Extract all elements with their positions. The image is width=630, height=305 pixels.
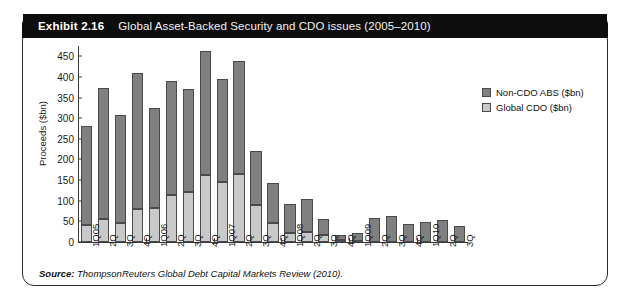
chart-legend: Non-CDO ABS ($bn)Global CDO ($bn): [482, 86, 584, 116]
x-tick-label: 1Q09: [362, 224, 373, 247]
bar: [149, 107, 160, 242]
x-tick-label: 2Q: [447, 234, 458, 247]
plot-area: Proceeds ($bn) 0501001502002503003504004…: [22, 28, 608, 286]
y-tick-label: 250: [57, 133, 74, 144]
x-tick-label: 4Q: [141, 234, 152, 247]
x-tick-label: 2Q: [379, 234, 390, 247]
y-tick-mark: [78, 138, 82, 139]
y-tick-mark: [78, 97, 82, 98]
x-tick-label: 4Q: [277, 234, 288, 247]
x-tick-label: 3Q: [192, 234, 203, 247]
y-tick-label: 200: [57, 154, 74, 165]
x-tick-label: 2Q: [311, 234, 322, 247]
x-tick-label: 1Q07: [226, 224, 237, 247]
y-tick-label: 300: [57, 113, 74, 124]
x-tick-mark: [214, 238, 215, 242]
y-tick-mark: [78, 76, 82, 77]
bar-segment-non-cdo-abs: [200, 51, 211, 175]
y-tick-label: 50: [63, 216, 74, 227]
legend-item: Global CDO ($bn): [482, 101, 584, 114]
y-tick-mark: [78, 56, 82, 57]
bar: [132, 73, 143, 242]
y-tick-mark: [78, 200, 82, 201]
x-tick-label: 4Q: [413, 234, 424, 247]
x-axis-line: [78, 242, 468, 243]
bar: [200, 51, 211, 242]
bar-segment-non-cdo-abs: [250, 151, 261, 205]
bar: [166, 81, 177, 242]
y-tick-mark: [78, 159, 82, 160]
x-tick-label: 2Q: [175, 234, 186, 247]
x-tick-label: 3Q: [124, 234, 135, 247]
exhibit-figure: Exhibit 2.16 Global Asset-Backed Securit…: [22, 14, 608, 286]
legend-label: Non-CDO ABS ($bn): [496, 87, 584, 98]
x-tick-label: 2Q: [107, 234, 118, 247]
x-tick-label: 4Q: [345, 234, 356, 247]
bar-segment-non-cdo-abs: [267, 183, 278, 223]
y-axis-ticks: 050100150200250300350400450: [44, 28, 74, 286]
bar-segment-global-cdo: [200, 175, 211, 242]
bar-segment-non-cdo-abs: [81, 126, 92, 225]
bar-segment-non-cdo-abs: [233, 61, 244, 174]
bar: [267, 183, 278, 242]
x-tick-mark: [281, 238, 282, 242]
x-tick-mark: [146, 238, 147, 242]
y-tick-label: 350: [57, 92, 74, 103]
legend-swatch-icon: [482, 88, 491, 97]
x-tick-mark: [417, 238, 418, 242]
y-tick-mark: [78, 180, 82, 181]
legend-label: Global CDO ($bn): [496, 102, 572, 113]
y-tick-mark: [78, 221, 82, 222]
x-tick-label: 2Q: [243, 234, 254, 247]
bar-segment-non-cdo-abs: [132, 73, 143, 209]
x-tick-label: 3Q: [396, 234, 407, 247]
bar-series-group: [78, 46, 468, 242]
y-tick-label: 400: [57, 71, 74, 82]
bar: [183, 89, 194, 242]
x-tick-label: 1Q06: [158, 224, 169, 247]
bar: [217, 79, 228, 242]
source-text: ThompsonReuters Global Debt Capital Mark…: [77, 268, 343, 279]
bar: [115, 115, 126, 242]
y-tick-label: 150: [57, 175, 74, 186]
bar: [233, 61, 244, 242]
x-tick-label: 3Q: [260, 234, 271, 247]
x-tick-label: 3Q: [328, 234, 339, 247]
x-tick-label: 4Q: [209, 234, 220, 247]
y-tick-label: 450: [57, 51, 74, 62]
bar-segment-non-cdo-abs: [166, 81, 177, 195]
x-tick-label: 1Q10: [430, 224, 441, 247]
bar: [98, 88, 109, 242]
y-tick-mark: [78, 118, 82, 119]
source-label: Source:: [39, 268, 74, 279]
legend-swatch-icon: [482, 103, 491, 112]
x-tick-label: 1Q05: [90, 224, 101, 247]
bar-segment-non-cdo-abs: [217, 79, 228, 182]
legend-item: Non-CDO ABS ($bn): [482, 86, 584, 99]
x-tick-mark: [78, 238, 79, 242]
bar-segment-non-cdo-abs: [183, 89, 194, 193]
y-tick-label: 100: [57, 195, 74, 206]
x-tick-label: 3Q: [464, 234, 475, 247]
bar-segment-non-cdo-abs: [318, 219, 329, 236]
bar-segment-non-cdo-abs: [149, 108, 160, 209]
source-note: Source: ThompsonReuters Global Debt Capi…: [39, 268, 343, 279]
x-tick-label: 1Q08: [294, 224, 305, 247]
bar-segment-non-cdo-abs: [98, 88, 109, 219]
y-tick-label: 0: [68, 237, 74, 248]
x-tick-mark: [349, 238, 350, 242]
bar-segment-non-cdo-abs: [115, 115, 126, 222]
bar: [250, 151, 261, 242]
